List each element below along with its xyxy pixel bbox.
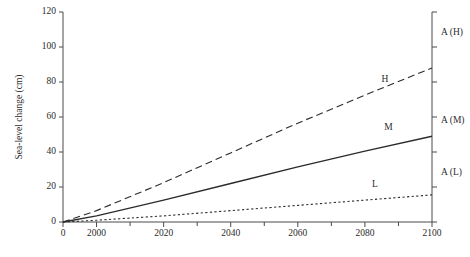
series-labels: HML	[372, 74, 393, 189]
y-tick-label: 100	[42, 41, 57, 51]
series-label-h: H	[382, 74, 389, 84]
y-axis: 020406080100120	[42, 6, 63, 226]
sea-level-change-chart: 020406080100120 200020202040206020802100…	[0, 0, 470, 257]
origin-tick-label: 0	[61, 228, 66, 238]
x-tick-label: 2020	[154, 228, 173, 238]
x-tick-label: 2080	[355, 228, 374, 238]
x-tick-label: 2000	[87, 228, 106, 238]
series-label-m: M	[384, 122, 393, 132]
right-axis-annotation-label: A (H)	[441, 27, 463, 38]
right-axis-annotation-label: A (L)	[441, 167, 462, 178]
x-tick-label: 2040	[221, 228, 240, 238]
x-axis: 200020202040206020802100	[63, 222, 442, 238]
right-axis-annotation-label: A (M)	[441, 115, 465, 126]
x-tick-label: 2060	[288, 228, 307, 238]
series-line-l	[63, 195, 432, 222]
y-tick-label: 20	[47, 181, 57, 191]
right-axis	[432, 12, 437, 222]
series-lines	[63, 68, 432, 222]
y-tick-label: 80	[47, 76, 57, 86]
y-tick-label: 60	[47, 111, 57, 121]
series-label-l: L	[372, 179, 378, 189]
chart-canvas: 020406080100120 200020202040206020802100…	[0, 0, 470, 257]
y-tick-label: 0	[51, 216, 56, 226]
y-axis-title: Sea-level change (cm)	[14, 75, 25, 160]
right-axis-annotations: A (H)A (M)A (L)	[441, 27, 465, 178]
x-tick-label: 2100	[423, 228, 442, 238]
y-tick-label: 120	[42, 6, 57, 16]
y-tick-label: 40	[47, 146, 57, 156]
